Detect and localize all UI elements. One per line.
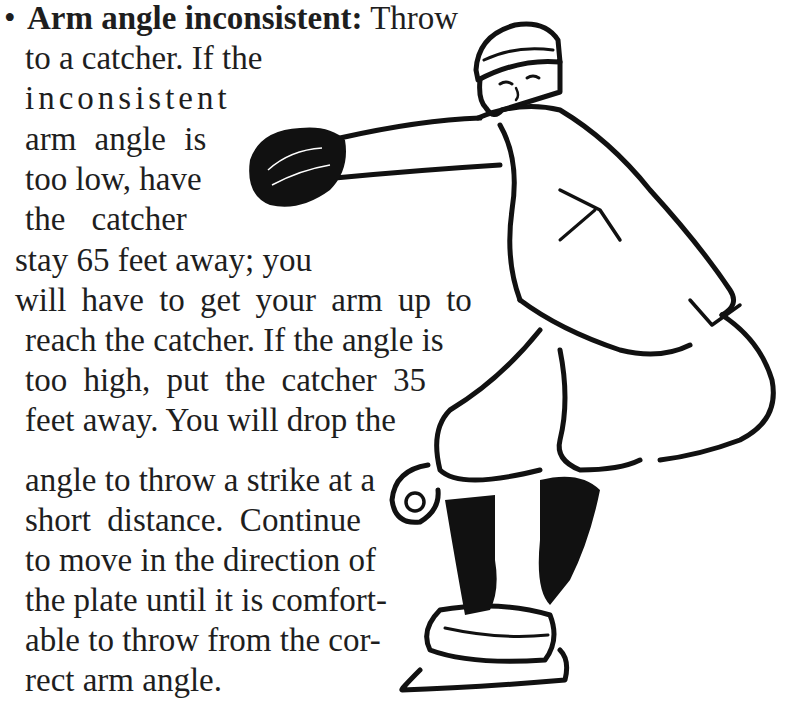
baseball-glove-icon [249, 128, 346, 207]
text-line-6: the catcher [25, 201, 187, 237]
text-line-4: arm angle is [25, 121, 206, 157]
text-line-3: inconsistent [25, 80, 231, 116]
left-sock [445, 495, 497, 615]
pitcher-illustration [238, 0, 789, 701]
text-line-5: too low, have [25, 161, 202, 197]
bullet-marker: • [4, 0, 16, 36]
right-sock [539, 477, 600, 605]
text-line-17: rect arm angle. [25, 662, 222, 698]
cap-icon [476, 24, 560, 80]
document-page: • Arm angle inconsistent: Throw to a cat… [0, 0, 789, 701]
text-line-2: to a catcher. If the [25, 40, 262, 76]
